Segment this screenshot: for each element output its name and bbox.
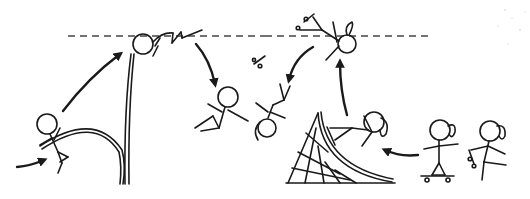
comic-canvas bbox=[0, 0, 530, 199]
arrow-icon bbox=[63, 54, 120, 111]
vaulter-at-top bbox=[125, 30, 202, 184]
arrow-icon bbox=[17, 160, 44, 167]
skate-ramp bbox=[286, 112, 395, 183]
skater-on-board bbox=[421, 120, 458, 182]
arrow-icon bbox=[196, 44, 215, 84]
arrow-icon bbox=[289, 47, 313, 80]
skater-pushing bbox=[468, 121, 506, 180]
vaulter-running bbox=[37, 114, 124, 184]
comic-drawing bbox=[0, 0, 530, 199]
arrow-icon bbox=[340, 62, 347, 115]
skater-falling bbox=[252, 56, 290, 140]
skater-on-ramp bbox=[327, 112, 387, 146]
arrow-icon bbox=[385, 150, 418, 155]
vaulter-falling bbox=[195, 87, 248, 131]
paper-texture bbox=[497, 9, 526, 45]
